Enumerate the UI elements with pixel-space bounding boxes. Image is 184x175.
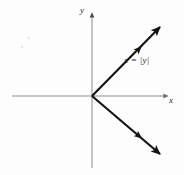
curve-equation-label: x = |y| [124, 55, 150, 65]
axes-group [12, 13, 168, 168]
curve-group [92, 27, 160, 154]
figure-container: y x x = |y| [0, 0, 184, 175]
paper-speck [28, 37, 30, 39]
y-axis-label: y [80, 6, 84, 15]
lower-ray [92, 96, 160, 154]
x-axis-label: x [169, 96, 173, 105]
paper-speck [21, 46, 23, 48]
graph-canvas [0, 0, 184, 175]
